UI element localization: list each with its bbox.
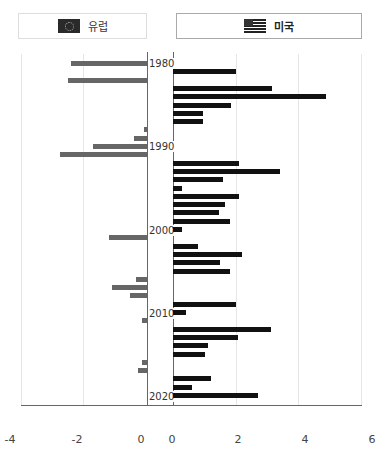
us-bar <box>173 310 186 315</box>
eu-bar <box>138 368 147 373</box>
eu-bar <box>112 285 147 290</box>
us-bar <box>173 177 223 182</box>
year-label: 2000 <box>148 225 175 236</box>
x-axis-line <box>21 405 362 406</box>
gridline <box>21 54 22 406</box>
us-bar <box>173 169 280 174</box>
us-bar <box>173 343 208 348</box>
eu-bar <box>71 61 147 66</box>
gridline <box>361 54 362 406</box>
us-bar <box>173 269 230 274</box>
us-bar <box>173 186 182 191</box>
eu-bar <box>130 293 147 298</box>
eu-bar <box>142 360 147 365</box>
us-bar <box>173 111 203 116</box>
us-bar <box>173 103 231 108</box>
bar-chart: -4 -2 0 0 2 4 6 1980 1990 2000 2010 2020 <box>0 0 385 464</box>
us-bar <box>173 252 242 257</box>
us-bar <box>173 376 211 381</box>
us-bar <box>173 94 326 99</box>
tick-label: -2 <box>72 433 83 446</box>
us-bar <box>173 327 271 332</box>
eu-bar <box>60 152 147 157</box>
us-bar <box>173 393 258 398</box>
eu-bar <box>68 78 147 83</box>
eu-bar <box>144 127 147 132</box>
tick-label: 2 <box>235 433 242 446</box>
us-bar <box>173 219 230 224</box>
us-bar <box>173 352 205 357</box>
year-label: 1980 <box>148 58 175 69</box>
us-bar <box>173 202 225 207</box>
gridline <box>83 54 84 406</box>
us-bar <box>173 260 220 265</box>
gridline <box>298 54 299 406</box>
eu-bar <box>93 144 147 149</box>
year-label: 2020 <box>148 391 175 402</box>
tick-label: 6 <box>369 433 376 446</box>
us-bar <box>173 86 272 91</box>
eu-bar <box>109 235 147 240</box>
eu-bar <box>134 136 147 141</box>
year-label: 2010 <box>148 308 175 319</box>
us-bar <box>173 244 198 249</box>
us-bar <box>173 302 236 307</box>
us-bar <box>173 385 192 390</box>
us-bar <box>173 335 238 340</box>
eu-bar <box>142 318 147 323</box>
tick-label: 4 <box>302 433 309 446</box>
us-bar <box>173 194 239 199</box>
tick-label: -4 <box>5 433 16 446</box>
year-label: 1990 <box>148 141 175 152</box>
tick-label: 0 <box>169 433 176 446</box>
us-bar <box>173 210 219 215</box>
us-bar <box>173 161 239 166</box>
us-bar <box>173 119 203 124</box>
tick-label: 0 <box>138 433 145 446</box>
eu-bar <box>136 277 147 282</box>
us-bar <box>173 227 182 232</box>
us-bar <box>173 69 236 74</box>
gridline <box>236 54 237 406</box>
